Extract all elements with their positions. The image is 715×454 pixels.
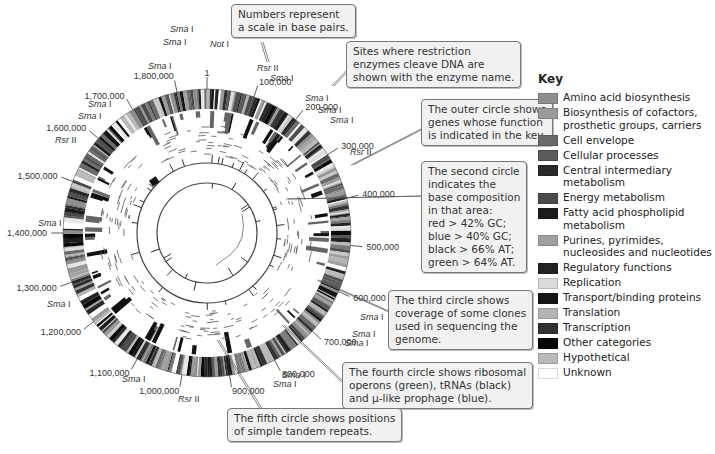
scale-label: 1,500,000 [18, 171, 58, 181]
legend-swatch [538, 235, 558, 246]
legend-title: Key [538, 72, 715, 86]
legend-swatch [538, 323, 558, 334]
scale-label: 1,600,000 [46, 123, 86, 133]
legend-swatch [538, 150, 558, 161]
legend-swatch [538, 293, 558, 304]
enzyme-site-label: Sma I [163, 37, 187, 47]
enzyme-site-label: Rsr II [257, 63, 279, 73]
clone-coverage-marks [101, 126, 311, 339]
legend-item: Regulatory functions [538, 261, 715, 274]
legend-label: Fatty acid phospholipid metabolism [563, 206, 715, 231]
enzyme-site-label: Sma I [305, 93, 329, 103]
legend-label: Amino acid biosynthesis [563, 91, 690, 104]
enzyme-site-label: Not I [210, 39, 229, 49]
legend-label: Regulatory functions [563, 261, 672, 274]
legend-item: Cellular processes [538, 149, 715, 162]
enzyme-site-label: Sma I [78, 111, 102, 121]
enzyme-site-label: Sma I [360, 312, 384, 322]
legend-item: Central intermediary metabolism [538, 164, 715, 189]
legend-swatch [538, 135, 558, 146]
scale-label: 500,000 [366, 242, 399, 252]
enzyme-site-label: Sma I [148, 61, 172, 71]
legend-swatch [538, 208, 558, 219]
legend-label: Other categories [563, 336, 651, 349]
legend-label: Transport/binding proteins [563, 291, 701, 304]
enzyme-site-label: Sma I [345, 338, 369, 348]
legend-swatch [538, 308, 558, 319]
legend-label: Cell envelope [563, 134, 634, 147]
legend-swatch [538, 93, 558, 104]
legend: Key Amino acid biosynthesisBiosynthesis … [538, 72, 715, 381]
scale-label: 1,400,000 [7, 228, 47, 238]
legend-item: Unknown [538, 366, 715, 379]
legend-swatch [538, 193, 558, 204]
direction-arrow-icon [216, 214, 244, 265]
scale-label: 1 [204, 68, 209, 78]
scale-label: 600,000 [353, 293, 386, 303]
scale-label: 1,000,000 [139, 386, 179, 396]
gene-function-ring [63, 89, 351, 377]
callout-outer-circle: The outer circle shows genes whose funct… [421, 99, 553, 146]
legend-item: Translation [538, 306, 715, 319]
legend-swatch [538, 338, 558, 349]
callout-third-circle: The third circle shows coverage of some … [388, 290, 533, 350]
legend-item: Amino acid biosynthesis [538, 91, 715, 104]
legend-item: Energy metabolism [538, 191, 715, 204]
enzyme-site-label: Sma I [38, 218, 62, 228]
scale-label: 900,000 [232, 386, 265, 396]
enzyme-site-label: Sma I [47, 299, 71, 309]
legend-item: Biosynthesis of cofactors, prosthetic gr… [538, 106, 715, 131]
legend-item: Replication [538, 276, 715, 289]
legend-swatch [538, 353, 558, 364]
legend-label: Energy metabolism [563, 191, 665, 204]
legend-label: Unknown [563, 366, 612, 379]
callout-scale: Numbers represent a scale in base pairs. [231, 4, 356, 38]
scale-label: 1,800,000 [134, 71, 174, 81]
callout-second-circle: The second circle indicates the base com… [421, 161, 527, 273]
legend-label: Biosynthesis of cofactors, prosthetic gr… [563, 106, 701, 131]
legend-item: Purines, pyrimides, nucleosides and nucl… [538, 234, 715, 259]
enzyme-site-label: Rsr II [55, 135, 77, 145]
enzyme-site-label: Sma I [88, 99, 112, 109]
legend-label: Hypothetical [563, 351, 630, 364]
enzyme-site-label: Sma I [318, 105, 342, 115]
enzyme-site-label: Sma I [270, 73, 294, 83]
legend-swatch [538, 368, 558, 379]
legend-item: Transcription [538, 321, 715, 334]
legend-swatch [538, 263, 558, 274]
legend-label: Central intermediary metabolism [563, 164, 715, 189]
enzyme-site-label: Sma I [273, 379, 297, 389]
third-circle [157, 183, 257, 283]
scale-label: 400,000 [362, 189, 395, 199]
callout-fourth-circle: The fourth circle shows ribosomal operon… [342, 362, 533, 409]
callout-enzymes: Sites where restriction enzymes cleave D… [346, 41, 521, 88]
enzyme-site-label: Rsr II [178, 394, 200, 404]
legend-item: Cell envelope [538, 134, 715, 147]
legend-swatch [538, 278, 558, 289]
scale-label: 1,300,000 [17, 283, 57, 293]
legend-label: Cellular processes [563, 149, 659, 162]
legend-swatch [538, 108, 558, 119]
second-circle [137, 163, 277, 303]
legend-label: Purines, pyrimides, nucleosides and nucl… [563, 234, 712, 259]
legend-label: Transcription [563, 321, 631, 334]
enzyme-site-label: Sma I [170, 24, 194, 34]
legend-item: Hypothetical [538, 351, 715, 364]
scale-label: 1,200,000 [41, 327, 81, 337]
legend-item: Other categories [538, 336, 715, 349]
gene-ticks-inner [85, 111, 329, 354]
legend-item: Transport/binding proteins [538, 291, 715, 304]
enzyme-site-label: Rsr II [350, 147, 372, 157]
legend-label: Translation [563, 306, 620, 319]
enzyme-site-label: Sma I [122, 374, 146, 384]
callout-fifth-circle: The fifth circle shows positions of simp… [227, 408, 402, 442]
legend-item: Fatty acid phospholipid metabolism [538, 206, 715, 231]
legend-label: Replication [563, 276, 621, 289]
enzyme-site-label: Sma I [330, 115, 354, 125]
legend-swatch [538, 165, 558, 176]
